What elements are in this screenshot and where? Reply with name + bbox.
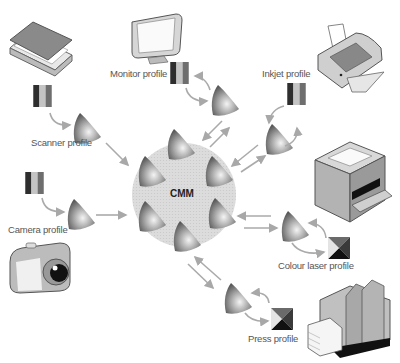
monitor-rgb-swatch bbox=[170, 62, 188, 84]
cmm-label: CMM bbox=[170, 188, 194, 199]
camera-illustration bbox=[10, 243, 70, 293]
monitor-gamut-icon bbox=[212, 85, 239, 116]
scanner-rgb-swatch bbox=[33, 85, 51, 107]
laser-gamut-icon bbox=[282, 211, 309, 242]
colour-laser-illustration bbox=[315, 142, 392, 222]
press-profile-label: Press profile bbox=[248, 333, 298, 344]
scanner-illustration bbox=[10, 22, 72, 76]
cmm-diagram bbox=[0, 0, 400, 363]
scanner-profile-label: Scanner profile bbox=[31, 137, 92, 148]
press-cmyk-swatch bbox=[271, 308, 293, 330]
laser-cmyk-swatch bbox=[328, 237, 350, 259]
camera-gamut-icon bbox=[68, 199, 95, 230]
inkjet-gamut-icon bbox=[266, 124, 293, 155]
colour-laser-profile-label: Colour laser profile bbox=[278, 260, 354, 271]
camera-profile-label: Camera profile bbox=[8, 224, 68, 235]
monitor-profile-label: Monitor profile bbox=[110, 68, 167, 79]
press-gamut-icon bbox=[225, 283, 252, 314]
monitor-illustration bbox=[132, 14, 182, 64]
inkjet-rgb-swatch bbox=[287, 83, 305, 105]
camera-rgb-swatch bbox=[25, 172, 43, 194]
inkjet-profile-label: Inkjet profile bbox=[262, 68, 310, 79]
inkjet-printer-illustration bbox=[318, 24, 384, 92]
press-illustration bbox=[308, 280, 390, 358]
